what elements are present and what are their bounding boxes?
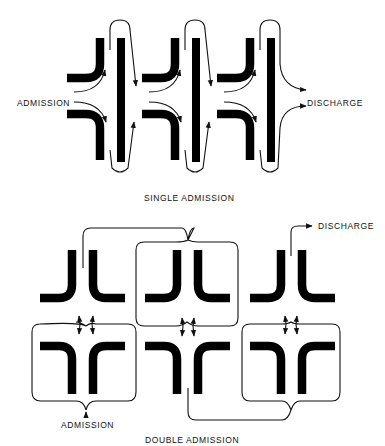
flow-network (32, 226, 340, 420)
stage-2 (142, 20, 211, 172)
rotor-bar (117, 38, 125, 162)
upper-blade (67, 38, 100, 78)
discharge-label: DISCHARGE (307, 98, 363, 108)
single-admission-title: SINGLE ADMISSION (144, 193, 234, 203)
stage-1 (67, 20, 136, 172)
double-admission-title: DOUBLE ADMISSION (145, 435, 239, 445)
admission-label-bottom: ADMISSION (61, 420, 114, 430)
turbine-flow-diagram: ADMISSION DISCHARGE SINGLE ADMISSION (0, 0, 385, 446)
lower-blade (67, 114, 100, 160)
upper-blade-pairs (40, 250, 335, 298)
discharge-label-bottom: DISCHARGE (318, 221, 374, 231)
single-admission-section: ADMISSION DISCHARGE SINGLE ADMISSION (17, 20, 363, 203)
lower-blade-pairs (40, 346, 335, 394)
double-admission-section: DISCHARGE ADMISSION DOUBLE ADMISSION (32, 221, 374, 445)
stage-3 (217, 20, 306, 172)
admission-label: ADMISSION (17, 98, 70, 108)
